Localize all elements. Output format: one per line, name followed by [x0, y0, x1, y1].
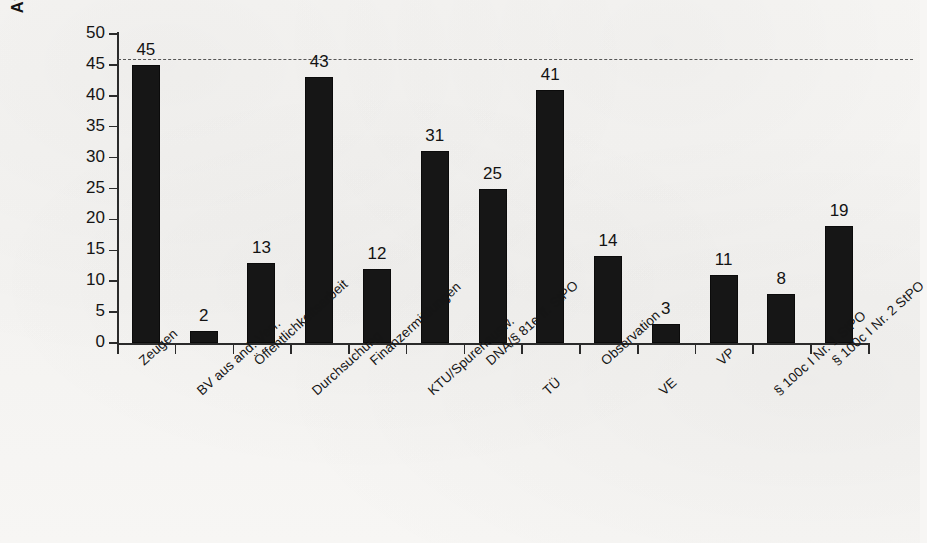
y-axis-tick-label: 40	[61, 85, 105, 105]
y-axis-tick-mark	[109, 280, 118, 282]
bar	[652, 324, 680, 343]
x-axis-tick-mark	[637, 345, 639, 354]
y-axis-tick-mark	[109, 342, 118, 344]
x-axis-category-label: TÜ	[540, 375, 564, 398]
x-axis-tick-mark	[579, 345, 581, 354]
reference-dashed-line	[118, 59, 913, 60]
y-axis-tick-label: 25	[61, 178, 105, 198]
x-axis-tick-mark	[290, 345, 292, 354]
bar-value-label: 13	[235, 238, 287, 258]
x-axis-category-label: VP	[714, 345, 738, 368]
bar-value-label: 19	[813, 201, 865, 221]
bar-value-label: 31	[409, 126, 461, 146]
bar-value-label: 8	[755, 269, 807, 289]
y-axis-tick-label: 20	[61, 208, 105, 228]
x-axis-tick-mark	[752, 345, 754, 354]
bar	[594, 256, 622, 343]
bar	[710, 275, 738, 343]
bar-value-label: 43	[293, 52, 345, 72]
y-axis-tick-mark	[109, 219, 118, 221]
y-axis-tick-label: 15	[61, 239, 105, 259]
x-axis-category-label: VE	[656, 375, 680, 398]
bar	[132, 65, 160, 343]
y-axis-tick-mark	[109, 126, 118, 128]
y-axis-tick-mark	[109, 250, 118, 252]
y-axis-tick-label: 35	[61, 116, 105, 136]
bar-value-label: 14	[582, 231, 634, 251]
y-axis-tick-mark	[109, 157, 118, 159]
bar-value-label: 45	[120, 40, 172, 60]
y-axis-tick-mark	[109, 33, 118, 35]
y-axis-tick-mark	[109, 64, 118, 66]
bar-value-label: 25	[467, 164, 519, 184]
x-axis-tick-mark	[521, 345, 523, 354]
x-axis-tick-mark	[695, 345, 697, 354]
y-axis-tick-label: 30	[61, 147, 105, 167]
y-axis-tick-label: 10	[61, 270, 105, 290]
y-axis-tick-label: 0	[61, 332, 105, 352]
y-axis-tick-mark	[109, 311, 118, 313]
bar	[190, 331, 218, 343]
bar-value-label: 41	[524, 65, 576, 85]
bar	[767, 294, 795, 343]
y-axis-tick-label: 5	[61, 301, 105, 321]
y-axis-title: Anzahl Verfahren	[8, 0, 27, 60]
x-axis-tick-mark	[175, 345, 177, 354]
bar-value-label: 12	[351, 244, 403, 264]
y-axis-tick-mark	[109, 188, 118, 190]
x-axis-tick-mark	[117, 345, 119, 354]
y-axis-tick-label: 45	[61, 54, 105, 74]
y-axis-tick-mark	[109, 95, 118, 97]
bar-value-label: 2	[178, 306, 230, 326]
y-axis-tick-label: 50	[61, 23, 105, 43]
bar-value-label: 11	[698, 250, 750, 270]
x-axis-tick-mark	[406, 345, 408, 354]
x-axis-tick-mark	[868, 345, 870, 354]
